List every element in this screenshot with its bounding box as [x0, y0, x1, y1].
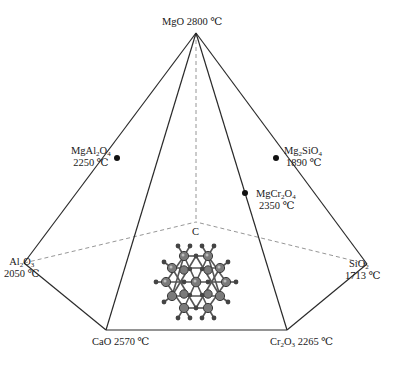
point-mgal2o4	[114, 155, 120, 161]
point-mgcr2o4	[242, 190, 248, 196]
formula-sio2: SiO2	[345, 258, 380, 270]
label-mgal2o4: MgAl2O4 2250 ℃	[71, 145, 111, 169]
formula-al2o3: Al2O3	[4, 256, 39, 268]
crystal-structure-icon	[154, 244, 239, 321]
point-mg2sio4	[273, 155, 279, 161]
temp-mg2sio4: 1890 ℃	[284, 157, 322, 169]
label-al2o3: Al2O3 2050 ℃	[4, 256, 39, 280]
temp-cr2o3: 2265 ℃	[298, 336, 333, 347]
label-mg2sio4: Mg2SiO4 1890 ℃	[284, 145, 322, 169]
apex-temperature: 2800 ℃	[187, 16, 222, 27]
temp-sio2: 1713 ℃	[345, 270, 380, 282]
apex-label-mgo: MgO 2800 ℃	[162, 16, 222, 28]
label-sio2: SiO2 1713 ℃	[345, 258, 380, 282]
formula-mg2sio4: Mg2SiO4	[284, 145, 322, 157]
compound-points	[114, 155, 279, 196]
temp-al2o3: 2050 ℃	[4, 268, 39, 280]
pyramid-diagram	[0, 0, 393, 367]
temp-cao: 2570 ℃	[114, 336, 149, 347]
center-label-c: C	[192, 226, 199, 238]
edge-sio2-center	[196, 222, 367, 264]
formula-cr2o3: Cr2O3	[270, 336, 295, 347]
temp-mgcr2o4: 2350 ℃	[256, 200, 296, 212]
label-cr2o3: Cr2O3 2265 ℃	[270, 336, 333, 348]
formula-mgal2o4: MgAl2O4	[71, 145, 111, 157]
label-cao: CaO 2570 ℃	[92, 336, 149, 348]
edge-apex-sio2	[196, 33, 367, 264]
formula-cao: CaO	[92, 336, 111, 347]
apex-formula: MgO	[162, 16, 184, 27]
temp-mgal2o4: 2250 ℃	[71, 157, 111, 169]
label-mgcr2o4: MgCr2O4 2350 ℃	[256, 188, 296, 212]
formula-mgcr2o4: MgCr2O4	[256, 188, 296, 200]
